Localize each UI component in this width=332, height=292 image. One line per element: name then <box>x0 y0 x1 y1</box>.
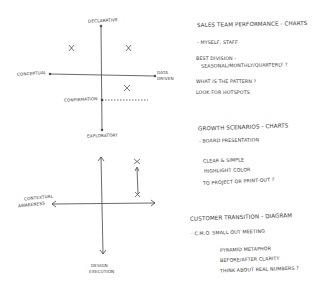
horizontal-axis <box>52 203 155 204</box>
vertical-axis <box>101 157 103 254</box>
x-mark <box>69 45 74 51</box>
sketch-canvas <box>0 0 332 292</box>
axis-label-right-1: Data <box>157 71 168 75</box>
top-quadrant-chart <box>49 25 156 131</box>
bottom-quadrant-chart <box>52 157 155 254</box>
axis-label-bottom-1: Design <box>91 264 108 268</box>
note-line: - myself, staff <box>197 41 238 46</box>
axis-label-right-2: Driven <box>157 77 174 81</box>
note-line: Look for hotspots <box>196 91 250 96</box>
vertical-axis <box>101 26 102 130</box>
x-mark <box>124 85 130 91</box>
axis-label-bottom-2: Execution <box>89 270 114 274</box>
x-mark <box>134 159 140 164</box>
note-line: What is the pattern ? <box>196 80 256 85</box>
growth-arrow <box>137 168 138 194</box>
x-mark <box>135 192 140 197</box>
x-mark <box>126 45 131 51</box>
note-line: Best division - <box>196 57 236 62</box>
horizontal-axis <box>50 74 155 76</box>
